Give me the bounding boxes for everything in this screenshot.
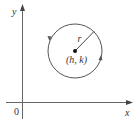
radius-label: r xyxy=(78,33,82,44)
x-axis xyxy=(6,100,133,105)
x-axis-arrow-icon xyxy=(126,100,133,105)
x-axis-label: x xyxy=(124,107,130,118)
diagram-canvas: r (h, k) y x 0 xyxy=(0,0,140,125)
center-label: (h, k) xyxy=(66,54,88,66)
y-axis-label: y xyxy=(11,6,17,17)
origin-label: 0 xyxy=(14,106,19,117)
center-point xyxy=(73,49,77,53)
y-axis xyxy=(20,4,25,119)
y-axis-arrow-icon xyxy=(20,4,25,11)
circle-diagram: r (h, k) y x 0 xyxy=(0,0,140,125)
